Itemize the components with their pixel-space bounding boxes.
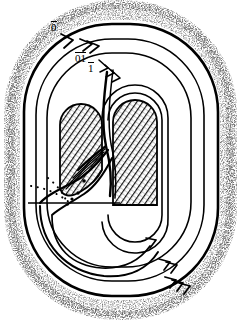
label-0-text: 0 [51, 21, 57, 34]
topology-figure: 0 01 1 [0, 0, 241, 320]
label-01-text: 01 [75, 52, 86, 65]
label-1-overline: 1 [88, 62, 94, 75]
label-1-text: 1 [88, 62, 94, 75]
label-0-overline: 0 [51, 21, 57, 34]
label-01-overline: 01 [75, 52, 86, 65]
figure-canvas [0, 0, 241, 320]
